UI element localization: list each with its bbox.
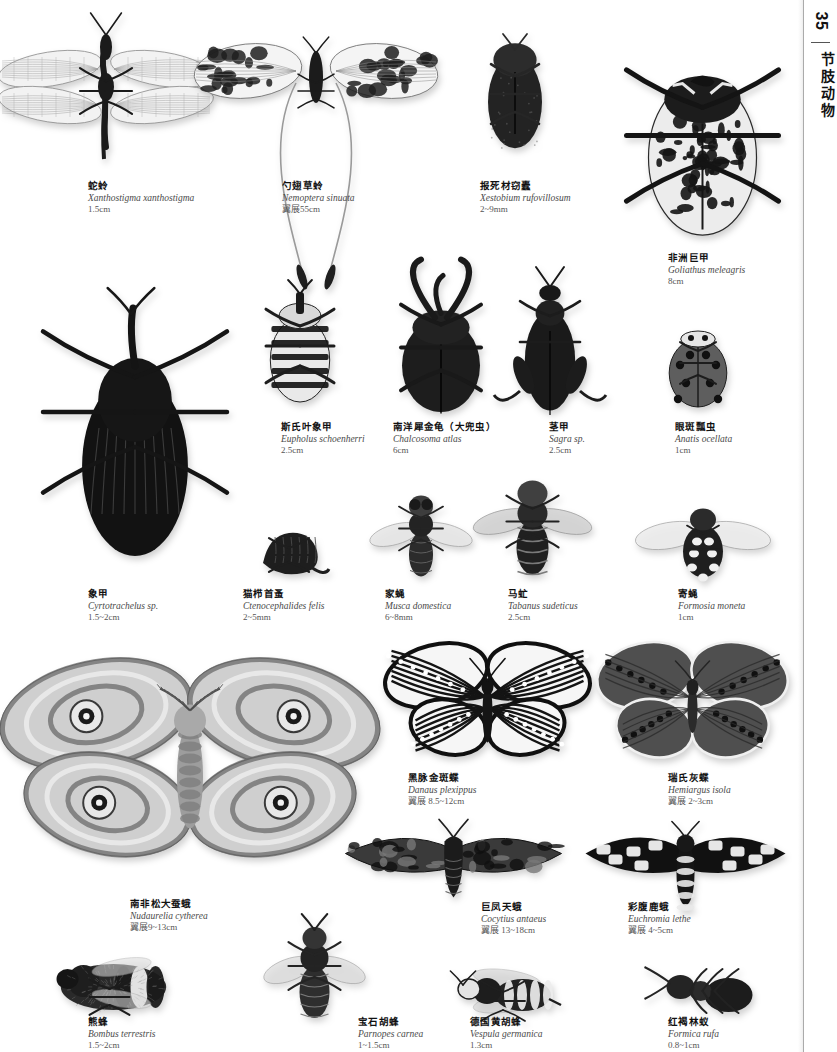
caption-size: 2~5mm: [243, 612, 325, 624]
caption-size: 0.8~1cm: [668, 1040, 719, 1052]
caption-size: 翼展9~13cm: [130, 922, 208, 934]
specimen-caption-goliath-beetle: 非洲巨甲Goliathus meleagris8cm: [668, 252, 745, 288]
caption-common-name: 红褐林蚁: [668, 1016, 719, 1028]
caption-size: 翼展 4~5cm: [628, 925, 691, 937]
specimen-photo-horse-fly: [480, 468, 585, 583]
caption-scientific-name: Formosia moneta: [678, 600, 745, 612]
specimen-caption-eupholus-weevil: 斯氏叶象甲Eupholus schoenherri2.5cm: [281, 421, 365, 457]
specimen-caption-atlas-beetle: 南洋犀金龟（大兜虫）Chalcosoma atlas6cm: [393, 421, 496, 457]
caption-common-name: 猫栉首蚤: [243, 588, 325, 600]
caption-scientific-name: Parnopes carnea: [358, 1028, 423, 1040]
specimen-caption-jewel-wasp: 宝石胡蜂Parnopes carnea1~1.5cm: [358, 1016, 423, 1052]
specimen-caption-giant-sphinx-moth: 巨凤天蛾Cocytius antaeus翼展 13~18cm: [481, 901, 546, 937]
specimen-photo-jewel-wasp: [262, 908, 367, 1020]
caption-scientific-name: Formica rufa: [668, 1028, 719, 1040]
caption-scientific-name: Nemoptera sinuata: [282, 192, 355, 204]
caption-common-name: 非洲巨甲: [668, 252, 745, 264]
caption-size: 1.3cm: [470, 1040, 543, 1052]
caption-scientific-name: Anatis ocellata: [675, 433, 732, 445]
tab-divider-rule: [811, 42, 830, 43]
specimen-caption-german-wasp: 德国黄胡蜂Vespula germanica1.3cm: [470, 1016, 543, 1052]
specimen-photo-giant-sphinx-moth: [336, 808, 571, 903]
specimen-photo-pine-emperor-moth: [0, 628, 380, 893]
specimen-photo-house-fly: [376, 478, 466, 583]
page-number: 35: [804, 5, 837, 38]
specimen-caption-palm-weevil: 象甲Cyrtotrachelus sp.1.5~2cm: [88, 588, 158, 624]
specimen-photo-goliath-beetle: [590, 12, 815, 247]
specimen-photo-deathwatch-beetle: [470, 20, 560, 160]
specimen-photo-eyed-ladybird: [650, 315, 746, 415]
caption-scientific-name: Xanthostigma xanthostigma: [88, 192, 194, 204]
caption-common-name: 马虻: [508, 588, 578, 600]
specimen-caption-deathwatch-beetle: 报死材窃蠹Xestobium rufovillosum2~9mm: [480, 180, 571, 216]
specimen-photo-reakirts-blue: [600, 638, 785, 768]
specimen-photo-cat-flea: [248, 512, 330, 582]
caption-size: 8cm: [668, 276, 745, 288]
caption-size: 2.5cm: [508, 612, 578, 624]
caption-size: 2~9mm: [480, 204, 571, 216]
caption-scientific-name: Vespula germanica: [470, 1028, 543, 1040]
caption-size: 1.5~2cm: [88, 1040, 155, 1052]
caption-scientific-name: Cyrtotrachelus sp.: [88, 600, 158, 612]
caption-size: 翼展55cm: [282, 204, 355, 216]
specimen-photo-euchromia-moth: [578, 810, 793, 905]
caption-common-name: 蛇蛉: [88, 180, 194, 192]
caption-scientific-name: Xestobium rufovillosum: [480, 192, 571, 204]
specimen-caption-reakirts-blue: 瑞氏灰蝶Hemiargus isola翼展 2~3cm: [668, 772, 731, 808]
caption-scientific-name: Euchromia lethe: [628, 913, 691, 925]
caption-common-name: 茎甲: [549, 421, 585, 433]
caption-size: 翼展 13~18cm: [481, 925, 546, 937]
caption-common-name: 象甲: [88, 588, 158, 600]
specimen-caption-buff-tailed-bumblebee: 熊蜂Bombus terrestris1.5~2cm: [88, 1016, 155, 1052]
caption-common-name: 巨凤天蛾: [481, 901, 546, 913]
caption-scientific-name: Eupholus schoenherri: [281, 433, 365, 445]
caption-common-name: 南非松大蚕蛾: [130, 898, 208, 910]
caption-scientific-name: Danaus plexippus: [408, 784, 476, 796]
caption-size: 1~1.5cm: [358, 1040, 423, 1052]
specimen-photo-snakefly: [6, 12, 206, 162]
specimen-photo-palm-weevil: [20, 272, 250, 572]
caption-scientific-name: Nudaurelia cytherea: [130, 910, 208, 922]
specimen-caption-spoonwing-lacewing: 勺翅草蛉Nemoptera sinuata翼展55cm: [282, 180, 355, 216]
caption-size: 6~8mm: [385, 612, 451, 624]
specimen-caption-pine-emperor-moth: 南非松大蚕蛾Nudaurelia cytherea翼展9~13cm: [130, 898, 208, 934]
caption-scientific-name: Sagra sp.: [549, 433, 585, 445]
caption-size: 1cm: [678, 612, 745, 624]
book-page: 蛇蛉Xanthostigma xanthostigma1.5cm勺翅草蛉Nemo…: [0, 0, 837, 1052]
caption-common-name: 南洋犀金龟（大兜虫）: [393, 421, 496, 433]
caption-common-name: 彩腹鹿蛾: [628, 901, 691, 913]
specimen-caption-sagra-beetle: 茎甲Sagra sp.2.5cm: [549, 421, 585, 457]
caption-size: 6cm: [393, 445, 496, 457]
caption-common-name: 熊蜂: [88, 1016, 155, 1028]
caption-common-name: 报死材窃蠹: [480, 180, 571, 192]
specimen-caption-horse-fly: 马虻Tabanus sudeticus2.5cm: [508, 588, 578, 624]
specimen-photo-german-wasp: [438, 960, 568, 1022]
page-edge-shadow: [798, 0, 804, 1052]
caption-scientific-name: Musca domestica: [385, 600, 451, 612]
caption-common-name: 寄蝇: [678, 588, 745, 600]
specimen-photo-tachinid-fly: [648, 490, 758, 585]
page-margin-tab: 35 节肢动物: [803, 0, 837, 1052]
specimen-caption-red-wood-ant: 红褐林蚁Formica rufa0.8~1cm: [668, 1016, 719, 1052]
caption-common-name: 斯氏叶象甲: [281, 421, 365, 433]
caption-scientific-name: Chalcosoma atlas: [393, 433, 496, 445]
caption-size: 1.5~2cm: [88, 612, 158, 624]
caption-common-name: 瑞氏灰蝶: [668, 772, 731, 784]
specimen-caption-eyed-ladybird: 眼斑瓢虫Anatis ocellata1cm: [675, 421, 732, 457]
caption-size: 翼展 8.5~12cm: [408, 796, 476, 808]
caption-size: 翼展 2~3cm: [668, 796, 731, 808]
specimen-photo-buff-tailed-bumblebee: [28, 948, 183, 1018]
caption-size: 1.5cm: [88, 204, 194, 216]
caption-scientific-name: Tabanus sudeticus: [508, 600, 578, 612]
caption-size: 2.5cm: [549, 445, 585, 457]
caption-common-name: 宝石胡蜂: [358, 1016, 423, 1028]
specimen-caption-snakefly: 蛇蛉Xanthostigma xanthostigma1.5cm: [88, 180, 194, 216]
caption-scientific-name: Hemiargus isola: [668, 784, 731, 796]
specimen-photo-sagra-beetle: [490, 255, 610, 415]
caption-common-name: 德国黄胡蜂: [470, 1016, 543, 1028]
caption-common-name: 勺翅草蛉: [282, 180, 355, 192]
caption-scientific-name: Cocytius antaeus: [481, 913, 546, 925]
specimen-photo-monarch-butterfly: [385, 635, 590, 770]
caption-common-name: 家蝇: [385, 588, 451, 600]
caption-common-name: 黑脉金斑蝶: [408, 772, 476, 784]
